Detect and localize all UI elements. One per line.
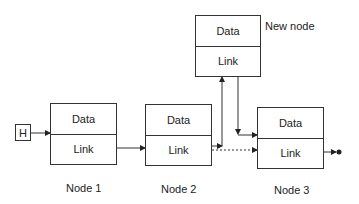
node-1-data: Data: [51, 104, 116, 135]
node-3-link: Link: [258, 138, 323, 168]
node-1: Data Link: [50, 103, 117, 165]
node-1-link: Link: [51, 134, 116, 164]
node-1-caption: Node 1: [66, 182, 101, 194]
node-2: Data Link: [145, 104, 212, 166]
head-pointer: H: [15, 124, 31, 141]
node-3-caption: Node 3: [274, 184, 309, 196]
node-2-link: Link: [146, 135, 211, 165]
new-node-data: Data: [196, 16, 260, 47]
head-label: H: [19, 127, 27, 139]
node-3: Data Link: [257, 107, 324, 169]
new-node-caption: New node: [265, 20, 315, 32]
new-node-link: Link: [196, 46, 260, 76]
node-3-data: Data: [258, 108, 323, 139]
node-2-data: Data: [146, 105, 211, 136]
new-node: Data Link: [195, 15, 261, 77]
node-2-caption: Node 2: [161, 183, 196, 195]
null-terminator-icon: [337, 150, 342, 155]
